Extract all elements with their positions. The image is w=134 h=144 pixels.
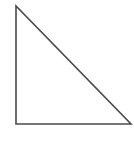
- right-triangle: [16, 6, 131, 124]
- diagram-canvas: [0, 0, 134, 144]
